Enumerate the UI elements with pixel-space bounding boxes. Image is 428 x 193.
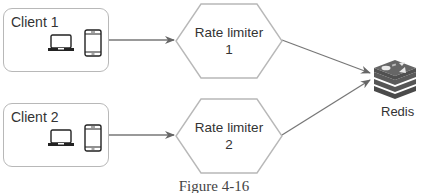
client-1-box[interactable]: Client 1 bbox=[3, 8, 109, 72]
rate-limiter-2-title: Rate limiter bbox=[175, 119, 283, 136]
arrow-ratelimiter1-to-redis bbox=[282, 40, 370, 73]
laptop-icon bbox=[48, 129, 74, 147]
client-2-label: Client 2 bbox=[11, 109, 58, 125]
figure-caption: Figure 4-16 bbox=[0, 178, 428, 193]
rate-limiter-2-number: 2 bbox=[175, 136, 283, 153]
rate-limiter-2-node[interactable]: Rate limiter 2 bbox=[175, 98, 283, 174]
redis-icon[interactable] bbox=[372, 58, 418, 100]
arrow-ratelimiter2-to-redis bbox=[282, 80, 370, 135]
client-2-box[interactable]: Client 2 bbox=[3, 103, 109, 167]
rate-limiter-1-node[interactable]: Rate limiter 1 bbox=[175, 3, 283, 79]
rate-limiter-1-number: 1 bbox=[175, 41, 283, 58]
rate-limiter-1-title: Rate limiter bbox=[175, 24, 283, 41]
phone-icon bbox=[84, 29, 102, 57]
laptop-icon bbox=[48, 34, 74, 52]
redis-label: Redis bbox=[381, 104, 414, 119]
client-1-label: Client 1 bbox=[11, 14, 58, 30]
phone-icon bbox=[84, 124, 102, 152]
